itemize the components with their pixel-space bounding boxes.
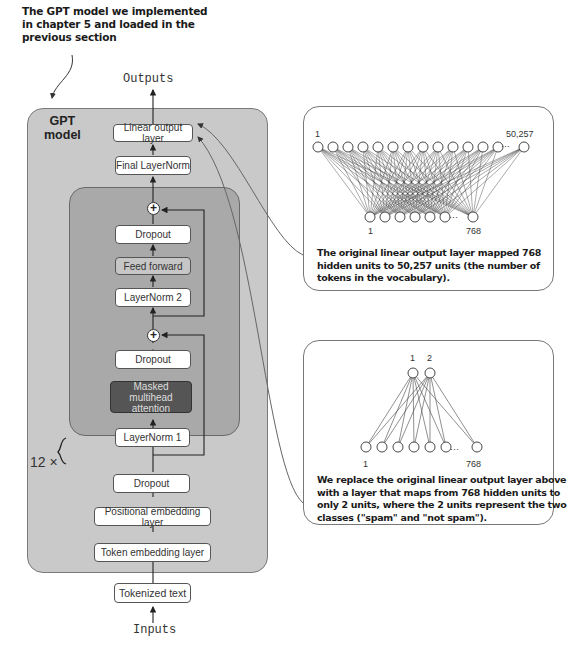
hidden-first-label: 1: [363, 459, 368, 469]
caption-line: classes ("spam" and "not spam").: [317, 512, 567, 525]
caption-line: with a layer that maps from 768 hidden u…: [317, 487, 567, 500]
caption-line: We replace the original linear output la…: [317, 474, 567, 487]
hidden-last-label: 768: [466, 459, 481, 469]
replacement-network-graph: [0, 0, 567, 653]
hidden-ellipsis: ···: [450, 444, 459, 454]
output-unit-2-label: 2: [427, 353, 432, 363]
caption-line: only 2 units, where the 2 units represen…: [317, 499, 567, 512]
output-unit-1-label: 1: [410, 353, 415, 363]
replacement-caption: We replace the original linear output la…: [317, 474, 567, 524]
